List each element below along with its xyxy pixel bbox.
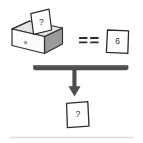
equality-bar-1 <box>79 37 87 39</box>
diagram-canvas: a ? == 6 <box>0 0 143 143</box>
diagram-illustration: a ? == 6 <box>0 0 143 143</box>
arrow-shaft <box>72 69 76 87</box>
result-paper: ? <box>67 102 89 128</box>
arrow-head <box>68 86 80 96</box>
down-arrow <box>68 69 80 96</box>
rule-bar-highlight <box>33 65 129 67</box>
equality-bar-3 <box>90 37 98 39</box>
equality-bar-2 <box>79 41 87 43</box>
horizontal-rule-bar <box>33 65 129 70</box>
equality-operator: == <box>79 33 99 43</box>
comparison-paper-value: 6 <box>115 36 120 46</box>
result-paper-value: ? <box>75 109 80 119</box>
box-contained-paper: ? <box>31 9 52 34</box>
contained-paper-value: ? <box>39 17 44 27</box>
comparison-paper: 6 <box>106 30 128 53</box>
equality-bar-4 <box>90 41 98 43</box>
